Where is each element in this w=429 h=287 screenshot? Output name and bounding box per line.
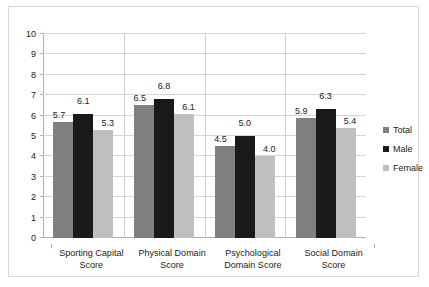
y-axis-tick-label: 8 [31,70,36,80]
bar-rect[interactable]: 6.5 [134,105,154,238]
bar-value-label: 4.0 [263,144,276,154]
bar-total[interactable]: 5.9 [296,34,316,238]
y-axis-tick-label: 1 [31,213,36,223]
y-axis-tick-label: 3 [31,172,36,182]
plot-area: 012345678910 5.76.15.36.56.86.14.55.04.0… [43,34,366,238]
legend-label: Male [393,144,413,154]
bar-rect[interactable]: 5.3 [93,130,113,238]
bar-total[interactable]: 4.5 [215,34,235,238]
legend-swatch-icon [383,165,389,171]
x-axis-tick-mark [374,244,375,248]
bar-total[interactable]: 5.7 [53,34,73,238]
legend-item-female[interactable]: Female [383,163,429,173]
bar-group: 5.96.35.4 [285,34,366,238]
bar-group: 4.55.04.0 [205,34,286,238]
bar-total[interactable]: 6.5 [134,34,154,238]
bar-value-label: 5.3 [101,118,114,128]
group-separator [124,34,125,238]
bar-female[interactable]: 5.4 [336,34,356,238]
bar-value-label: 6.1 [77,96,90,106]
bar-rect[interactable]: 4.0 [255,156,275,238]
bar-rect[interactable]: 6.8 [154,99,174,238]
bar-rect[interactable]: 6.1 [73,114,93,238]
bar-value-label: 6.1 [182,102,195,112]
bar-value-label: 5.4 [344,116,357,126]
y-axis-tick-label: 4 [31,151,36,161]
legend-label: Female [393,163,423,173]
bar-female[interactable]: 5.3 [93,34,113,238]
bar-value-label: 4.5 [214,134,227,144]
y-axis-tick-label: 7 [31,90,36,100]
bar-value-label: 6.8 [158,81,171,91]
legend-item-total[interactable]: Total [383,125,429,135]
bar-value-label: 5.9 [295,106,308,116]
group-separator [205,34,206,238]
chart-legend: TotalMaleFemale [383,125,429,182]
x-axis-tick-mark [51,244,52,248]
y-axis-tick-label: 10 [26,29,36,39]
x-axis-category-label: Social Domain Score [293,248,374,271]
bar-value-label: 6.5 [133,93,146,103]
x-axis-category-label: Sporting Capital Score [51,248,132,271]
bar-rect[interactable]: 5.7 [53,122,73,238]
y-axis-tick-label: 0 [31,233,36,243]
legend-swatch-icon [383,127,389,133]
bar-rect[interactable]: 5.0 [235,136,255,238]
bar-female[interactable]: 6.1 [174,34,194,238]
x-axis-category-labels: Sporting Capital ScorePhysical Domain Sc… [51,248,374,282]
bar-group: 5.76.15.3 [43,34,124,238]
bar-value-label: 6.3 [319,91,332,101]
x-axis-category-label: Physical Domain Score [132,248,213,271]
bar-rect[interactable]: 5.9 [296,118,316,238]
bar-rect[interactable]: 4.5 [215,146,235,238]
chart-container: 012345678910 5.76.15.36.56.86.14.55.04.0… [8,6,419,277]
y-axis-tick-label: 6 [31,111,36,121]
legend-label: Total [393,125,412,135]
bar-male[interactable]: 6.1 [73,34,93,238]
bar-value-label: 5.0 [239,118,252,128]
bar-value-label: 5.7 [53,110,66,120]
bar-male[interactable]: 6.3 [316,34,336,238]
y-axis-tick-label: 2 [31,192,36,202]
bar-female[interactable]: 4.0 [255,34,275,238]
bar-group: 6.56.86.1 [124,34,205,238]
x-axis-category-label: Psychological Domain Score [213,248,294,271]
y-axis-tick-label: 9 [31,49,36,59]
y-axis-tick-label: 5 [31,131,36,141]
bar-male[interactable]: 5.0 [235,34,255,238]
legend-swatch-icon [383,146,389,152]
bar-male[interactable]: 6.8 [154,34,174,238]
bar-rect[interactable]: 5.4 [336,128,356,238]
bar-rect[interactable]: 6.1 [174,114,194,238]
legend-item-male[interactable]: Male [383,144,429,154]
bar-rect[interactable]: 6.3 [316,109,336,238]
group-separator [285,34,286,238]
